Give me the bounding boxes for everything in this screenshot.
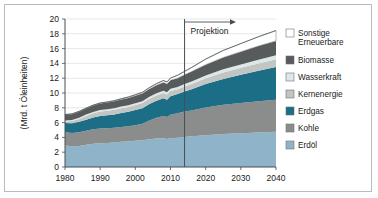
y-axis-ticks: 02468101214161820 <box>50 14 65 172</box>
y-tick-label: 16 <box>50 44 60 54</box>
legend-label-0-line2: Erneuerbare <box>298 38 344 47</box>
legend-swatch-5 <box>286 124 294 132</box>
x-tick-label: 2040 <box>267 173 286 183</box>
legend-label-0: Sonstige <box>298 29 330 38</box>
x-tick-label: 1990 <box>91 173 110 183</box>
legend-label-4: Erdgas <box>298 107 324 116</box>
legend-label-3: Kernenergie <box>298 90 343 99</box>
y-tick-label: 14 <box>50 58 60 68</box>
x-tick-label: 2020 <box>196 173 215 183</box>
x-axis-ticks: 1980199020002010202020302040 <box>56 167 286 183</box>
chart-svg: Projektion024681012141618201980199020002… <box>5 5 373 193</box>
legend-swatch-0 <box>286 29 294 37</box>
chart-card: Projektion024681012141618201980199020002… <box>4 4 372 192</box>
x-tick-label: 2000 <box>126 173 145 183</box>
legend-label-6: Erdöl <box>298 141 317 150</box>
y-tick-label: 0 <box>54 162 59 172</box>
legend-swatch-6 <box>286 141 294 149</box>
stacked-area-chart: Projektion024681012141618201980199020002… <box>5 5 373 193</box>
legend-swatch-4 <box>286 107 294 115</box>
legend-label-2: Wasserkraft <box>298 73 342 82</box>
y-tick-label: 20 <box>50 14 60 24</box>
x-tick-label: 2030 <box>231 173 250 183</box>
y-tick-label: 18 <box>50 29 60 39</box>
y-tick-label: 4 <box>54 132 59 142</box>
y-tick-label: 2 <box>54 147 59 157</box>
y-tick-label: 8 <box>54 103 59 113</box>
y-tick-label: 10 <box>50 88 60 98</box>
x-tick-label: 2010 <box>161 173 180 183</box>
legend-swatch-2 <box>286 73 294 81</box>
legend-label-1: Biomasse <box>298 56 334 65</box>
legend: SonstigeErneuerbareBiomasseWasserkraftKe… <box>286 29 344 150</box>
x-tick-label: 1980 <box>56 173 75 183</box>
projection-label: Projektion <box>191 26 229 36</box>
legend-swatch-1 <box>286 56 294 64</box>
legend-label-5: Kohle <box>298 124 319 133</box>
y-tick-label: 12 <box>50 73 60 83</box>
y-axis-title: (Mrd. t Öleinheiten) <box>19 56 29 129</box>
y-tick-label: 6 <box>54 118 59 128</box>
legend-swatch-3 <box>286 90 294 98</box>
